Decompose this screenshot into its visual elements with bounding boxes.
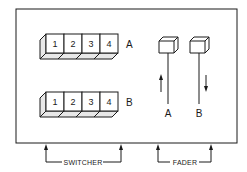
button-label: 1 — [52, 97, 57, 107]
arrow-up-icon — [209, 144, 213, 150]
fader-b-label: B — [196, 108, 203, 119]
button-label: 1 — [52, 39, 57, 49]
switcher-row-a: 1 2 3 4 A — [40, 34, 133, 59]
button-label: 3 — [88, 97, 93, 107]
arrow-up-icon — [156, 144, 160, 150]
arrow-up-icon — [159, 74, 163, 92]
button-label: 2 — [70, 97, 75, 107]
button-label: 3 — [88, 39, 93, 49]
switcher-row-b: 1 2 3 4 B — [40, 92, 133, 117]
control-panel-frame — [16, 9, 237, 143]
button-label: 4 — [106, 97, 111, 107]
fader-caption: FADER — [173, 159, 197, 166]
fader-bracket: FADER — [156, 144, 213, 166]
switcher-fader-diagram: 1 2 3 4 A 1 2 — [0, 0, 247, 172]
button-label: 2 — [70, 39, 75, 49]
fader-a-label: A — [165, 108, 172, 119]
button-label: 4 — [106, 39, 111, 49]
switcher-bracket: SWITCHER — [44, 144, 123, 166]
row-b-label: B — [126, 97, 133, 108]
fader-lever-a[interactable]: A — [159, 37, 178, 119]
arrow-up-icon — [119, 144, 123, 150]
arrow-up-icon — [44, 144, 48, 150]
row-a-label: A — [126, 39, 133, 50]
switcher-caption: SWITCHER — [64, 159, 103, 166]
fader-lever-b[interactable]: B — [190, 37, 209, 119]
arrow-down-icon — [204, 75, 208, 92]
